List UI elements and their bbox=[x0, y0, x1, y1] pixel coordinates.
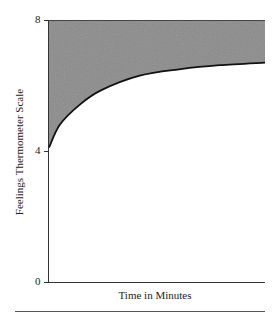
ytick-label-8: 8 bbox=[35, 13, 41, 25]
ytick-label-0: 0 bbox=[35, 275, 41, 287]
x-axis-label: Time in Minutes bbox=[119, 289, 192, 301]
ytick-label-4: 4 bbox=[35, 144, 41, 156]
shaded-region bbox=[49, 20, 265, 148]
y-axis-label: Feelings Thermometer Scale bbox=[13, 89, 25, 215]
chart: 8 4 0 Feelings Thermometer Scale Time in… bbox=[0, 0, 276, 323]
plot-area bbox=[0, 0, 276, 323]
